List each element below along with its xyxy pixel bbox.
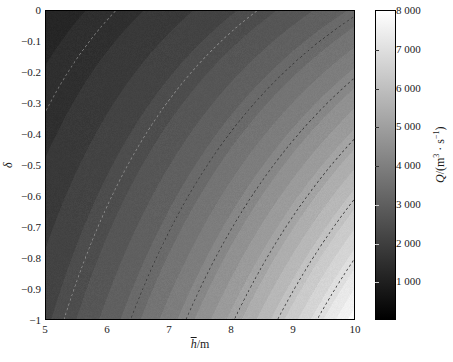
- contour-plot-area: [45, 10, 355, 320]
- colorbar-tick-mark: [375, 50, 379, 51]
- colorbar-tick-mark: [375, 282, 379, 283]
- y-tick-mark: [45, 42, 46, 43]
- y-tick-label: −0.4: [21, 128, 41, 140]
- y-tick-label: −0.3: [21, 97, 41, 109]
- colorbar-tick-mark: [375, 244, 379, 245]
- colorbar-title: Q/(m3 · s−1): [432, 126, 448, 183]
- x-tick-mark: [46, 319, 47, 320]
- colorbar-title-mid: · s: [433, 139, 447, 154]
- colorbar-tick-label: 1 000: [396, 275, 421, 287]
- y-tick-mark: [45, 104, 46, 105]
- colorbar-title-rest: /(m: [433, 158, 447, 175]
- colorbar-tick-label: 7 000: [396, 43, 421, 55]
- y-tick-label: −0.8: [21, 252, 41, 264]
- y-tick-mark: [45, 259, 46, 260]
- x-tick-label: 9: [290, 323, 296, 335]
- colorbar-tick-label: 4 000: [396, 159, 421, 171]
- colorbar-title-symbol: Q: [433, 174, 447, 183]
- y-tick-mark: [45, 135, 46, 136]
- x-axis-title-unit: /m: [197, 337, 210, 351]
- colorbar-tick-mark: [375, 127, 379, 128]
- x-tick-mark: [108, 319, 109, 320]
- y-tick-label: −0.9: [21, 283, 41, 295]
- y-tick-label: −0.5: [21, 159, 41, 171]
- x-axis-title: h/m: [191, 337, 210, 352]
- colorbar-tick-label: 2 000: [396, 237, 421, 249]
- x-tick-label: 8: [228, 323, 234, 335]
- contour-field-canvas: [46, 11, 354, 319]
- colorbar-tick-mark: [375, 166, 379, 167]
- colorbar-tick-label: 8 000: [396, 4, 421, 16]
- y-tick-mark: [45, 290, 46, 291]
- colorbar-title-end: ): [433, 126, 447, 130]
- y-tick-mark: [45, 197, 46, 198]
- x-tick-label: 5: [42, 323, 48, 335]
- x-tick-mark: [170, 319, 171, 320]
- y-tick-label: −0.1: [21, 35, 41, 47]
- y-tick-label: −0.2: [21, 66, 41, 78]
- colorbar-gradient: [375, 10, 396, 320]
- y-tick-label: −0.7: [21, 221, 41, 233]
- colorbar-tick-label: 3 000: [396, 198, 421, 210]
- y-tick-label: −1: [29, 314, 41, 326]
- y-tick-label: −0.6: [21, 190, 41, 202]
- x-tick-mark: [294, 319, 295, 320]
- y-tick-mark: [45, 73, 46, 74]
- y-axis-title: δ: [1, 162, 16, 168]
- colorbar-tick-mark: [375, 205, 379, 206]
- x-tick-mark: [232, 319, 233, 320]
- colorbar-title-sup-s: −1: [432, 130, 441, 139]
- y-tick-mark: [45, 228, 46, 229]
- colorbar-tick-label: 5 000: [396, 120, 421, 132]
- x-tick-label: 10: [350, 323, 361, 335]
- colorbar-tick-mark: [375, 89, 379, 90]
- x-tick-label: 6: [104, 323, 110, 335]
- colorbar-tick-label: 6 000: [396, 82, 421, 94]
- x-tick-label: 7: [166, 323, 172, 335]
- colorbar-title-sup-m3: 3: [432, 154, 441, 158]
- y-tick-mark: [45, 166, 46, 167]
- y-tick-mark: [45, 11, 46, 12]
- y-tick-label: 0: [36, 4, 42, 16]
